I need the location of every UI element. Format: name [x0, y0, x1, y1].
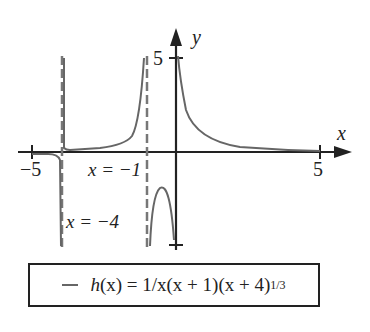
y-tick-label-5: 5: [153, 47, 163, 69]
asymptote-label-neg1: x = −1: [87, 159, 141, 180]
legend-func-name: h: [90, 274, 100, 296]
curve-branch-4: [178, 56, 320, 151]
x-tick-label-5: 5: [313, 158, 323, 180]
y-axis-label: y: [190, 26, 201, 49]
y-axis-arrow-icon: [170, 28, 182, 46]
legend-equation: (x) = 1/x(x + 1)(x + 4): [100, 274, 270, 296]
legend: h(x) = 1/x(x + 1)(x + 4)1/3: [28, 263, 320, 307]
asymptote-label-neg4: x = −4: [65, 211, 120, 232]
x-tick-label-neg5: −5: [20, 158, 41, 180]
legend-exponent: 1/3: [270, 278, 285, 293]
curve-branch-2: [64, 58, 144, 150]
x-axis-label: x: [336, 122, 346, 144]
x-axis-arrow-icon: [334, 146, 352, 158]
curve-branch-3: [150, 187, 174, 246]
legend-line-swatch-icon: [62, 284, 78, 286]
